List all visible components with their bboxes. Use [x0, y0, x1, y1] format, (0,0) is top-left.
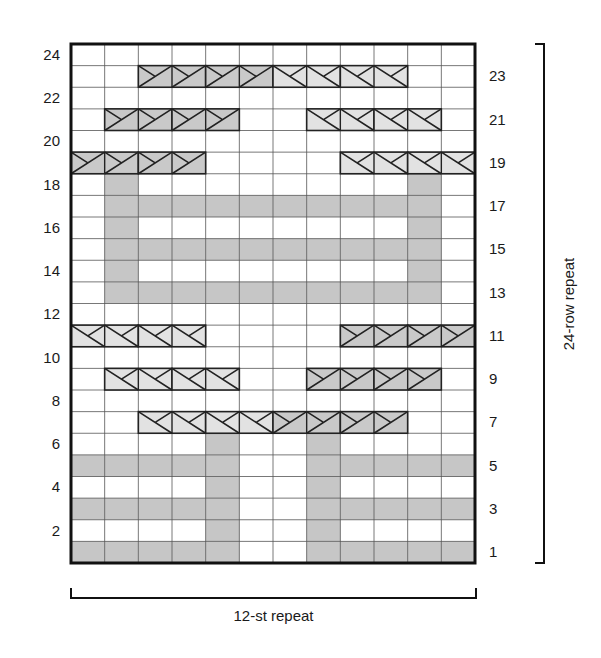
row-label-15: 15 — [489, 241, 506, 257]
shaded-cell — [206, 239, 240, 261]
cable-light-symbol — [172, 368, 239, 390]
shaded-cell — [206, 520, 240, 542]
shaded-cell — [408, 455, 442, 477]
row-label-1: 1 — [489, 544, 497, 560]
shaded-cell — [239, 239, 273, 261]
shaded-cell — [206, 541, 240, 563]
shaded-cell — [71, 498, 105, 520]
row-label-6: 6 — [30, 436, 60, 452]
shaded-cell — [138, 498, 172, 520]
row-repeat-bracket — [535, 44, 544, 563]
shaded-cell — [307, 195, 341, 217]
stitch-repeat-bracket — [71, 588, 476, 598]
cable-dark-symbol — [340, 325, 407, 347]
shaded-cell — [172, 541, 206, 563]
cable-light-symbol — [307, 109, 374, 131]
shaded-cell — [408, 195, 442, 217]
cable-light-symbol — [206, 412, 273, 434]
row-label-3: 3 — [489, 501, 497, 517]
shaded-cell — [105, 195, 139, 217]
shaded-cell — [441, 498, 475, 520]
shaded-cell — [374, 455, 408, 477]
cable-light-symbol — [408, 152, 475, 174]
shaded-cell — [172, 239, 206, 261]
shaded-cell — [408, 239, 442, 261]
row-label-17: 17 — [489, 198, 506, 214]
row-label-10: 10 — [30, 350, 60, 366]
knitting-chart — [0, 0, 601, 658]
shaded-cell — [138, 541, 172, 563]
row-label-24: 24 — [30, 47, 60, 63]
shaded-cell — [307, 455, 341, 477]
shaded-cell — [138, 195, 172, 217]
cable-dark-symbol — [138, 152, 205, 174]
cable-light-symbol — [138, 412, 205, 434]
row-label-18: 18 — [30, 177, 60, 193]
cable-dark-symbol — [71, 152, 138, 174]
shaded-cell — [374, 239, 408, 261]
row-label-20: 20 — [30, 133, 60, 149]
shaded-cell — [273, 282, 307, 304]
cable-light-symbol — [71, 325, 138, 347]
row-label-9: 9 — [489, 371, 497, 387]
row-label-11: 11 — [489, 328, 505, 344]
shaded-cell — [307, 520, 341, 542]
shaded-cell — [408, 260, 442, 282]
shaded-cell — [206, 477, 240, 499]
shaded-cell — [307, 433, 341, 455]
row-repeat-label: 24-row repeat — [560, 258, 577, 351]
row-label-4: 4 — [30, 479, 60, 495]
row-label-19: 19 — [489, 155, 506, 171]
shaded-cell — [340, 541, 374, 563]
shaded-cell — [374, 498, 408, 520]
shaded-cell — [206, 455, 240, 477]
cable-light-symbol — [340, 66, 407, 88]
row-label-21: 21 — [489, 112, 506, 128]
shaded-cell — [206, 282, 240, 304]
shaded-cell — [105, 260, 139, 282]
shaded-cell — [105, 239, 139, 261]
shaded-cell — [307, 282, 341, 304]
shaded-cell — [172, 195, 206, 217]
shaded-cell — [307, 477, 341, 499]
row-label-23: 23 — [489, 68, 506, 84]
row-label-2: 2 — [30, 523, 60, 539]
shaded-cell — [105, 498, 139, 520]
row-label-5: 5 — [489, 458, 497, 474]
cable-dark-symbol — [105, 109, 172, 131]
shaded-cell — [172, 498, 206, 520]
shaded-cell — [206, 433, 240, 455]
shaded-cell — [340, 282, 374, 304]
shaded-cell — [273, 195, 307, 217]
shaded-cell — [408, 282, 442, 304]
cable-light-symbol — [273, 66, 340, 88]
row-label-8: 8 — [30, 393, 60, 409]
row-label-7: 7 — [489, 414, 497, 430]
cable-dark-symbol — [273, 412, 340, 434]
shaded-cell — [105, 541, 139, 563]
shaded-cell — [105, 282, 139, 304]
shaded-cell — [408, 498, 442, 520]
shaded-cell — [408, 541, 442, 563]
shaded-cell — [273, 239, 307, 261]
row-label-16: 16 — [30, 220, 60, 236]
shaded-cell — [206, 195, 240, 217]
cable-dark-symbol — [206, 66, 273, 88]
shaded-cell — [206, 498, 240, 520]
shaded-cell — [374, 541, 408, 563]
row-label-12: 12 — [30, 306, 60, 322]
shaded-cell — [307, 239, 341, 261]
shaded-cell — [239, 282, 273, 304]
shaded-cell — [105, 455, 139, 477]
cable-light-symbol — [340, 152, 407, 174]
shaded-cell — [138, 239, 172, 261]
cable-light-symbol — [138, 325, 205, 347]
shaded-cell — [408, 174, 442, 196]
row-label-13: 13 — [489, 285, 506, 301]
shaded-cell — [340, 239, 374, 261]
shaded-cell — [105, 174, 139, 196]
cable-dark-symbol — [172, 109, 239, 131]
shaded-cell — [408, 217, 442, 239]
row-label-14: 14 — [30, 263, 60, 279]
stitch-repeat-label: 12-st repeat — [71, 607, 476, 624]
